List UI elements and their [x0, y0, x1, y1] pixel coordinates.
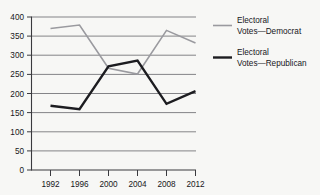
y-tick-label-250: 250: [10, 70, 24, 79]
y-tick-label-200: 200: [10, 90, 24, 99]
x-tick-label-1996: 1996: [70, 180, 89, 189]
y-tick-label-400: 400: [10, 13, 24, 22]
x-tick-label-2000: 2000: [99, 180, 118, 189]
y-tick-label-350: 350: [10, 32, 24, 41]
series-lines: [51, 25, 196, 109]
legend-label-democrat-line2: Votes—Democrat: [237, 27, 302, 36]
y-tick-label-150: 150: [10, 109, 24, 118]
y-tick-labels: 400 350 300 250 200 150 100 50 0: [10, 13, 24, 175]
x-tick-label-2004: 2004: [128, 180, 147, 189]
y-tick-marks: [27, 17, 31, 170]
x-tick-labels: 1992 1996 2000 2004 2008 2012: [41, 180, 205, 189]
y-tick-label-0: 0: [19, 166, 24, 175]
x-tick-marks: [51, 170, 196, 176]
x-tick-label-1992: 1992: [41, 180, 60, 189]
line-chart: 400 350 300 250 200 150 100 50 0 1992 19…: [0, 0, 320, 195]
y-tick-label-100: 100: [10, 128, 24, 137]
y-tick-label-300: 300: [10, 51, 24, 60]
series-line-democrat: [51, 25, 196, 74]
legend-label-democrat-line1: Electoral: [237, 16, 269, 25]
y-tick-label-50: 50: [15, 147, 25, 156]
legend-label-republican-line2: Votes—Republican: [237, 59, 307, 68]
x-tick-label-2012: 2012: [186, 180, 205, 189]
legend: Electoral Votes—Democrat Electoral Votes…: [213, 16, 307, 68]
series-line-republican: [51, 61, 196, 110]
chart-container: 400 350 300 250 200 150 100 50 0 1992 19…: [0, 0, 320, 195]
x-tick-label-2008: 2008: [157, 180, 176, 189]
grid-lines: [31, 17, 196, 151]
legend-label-republican-line1: Electoral: [237, 48, 269, 57]
